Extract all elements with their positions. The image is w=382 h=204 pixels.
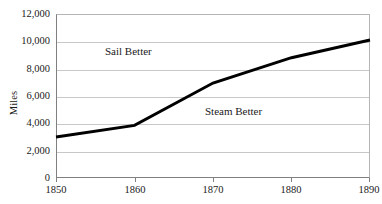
gridline-6000: [57, 97, 369, 98]
x-tick-label-1870: 1870: [188, 184, 238, 195]
gridline-4000: [57, 124, 369, 125]
y-tick-label-0: 0: [0, 173, 50, 183]
line-chart: Miles 12,000 10,000 8,000 6,000 4,000 2,…: [0, 0, 382, 204]
gridline-10000: [57, 42, 369, 43]
x-tick-1870: [213, 178, 214, 182]
x-tick-label-1850: 1850: [31, 184, 81, 195]
x-tick-label-1860: 1860: [110, 184, 160, 195]
plot-area: [56, 14, 370, 178]
annotation-steam-better: Steam Better: [205, 105, 262, 117]
x-tick-1860: [135, 178, 136, 182]
annotation-sail-better: Sail Better: [105, 45, 152, 57]
gridline-8000: [57, 70, 369, 71]
y-tick-label-4000: 4,000: [0, 118, 50, 128]
x-tick-1880: [291, 178, 292, 182]
y-tick-label-12000: 12,000: [0, 9, 50, 19]
x-tick-1890: [369, 178, 370, 182]
y-tick-label-6000: 6,000: [0, 91, 50, 101]
x-tick-label-1890: 1890: [344, 184, 382, 195]
gridline-2000: [57, 152, 369, 153]
x-tick-1850: [56, 178, 57, 182]
x-tick-label-1880: 1880: [266, 184, 316, 195]
y-tick-label-2000: 2,000: [0, 146, 50, 156]
y-tick-label-10000: 10,000: [0, 36, 50, 46]
y-tick-label-8000: 8,000: [0, 64, 50, 74]
